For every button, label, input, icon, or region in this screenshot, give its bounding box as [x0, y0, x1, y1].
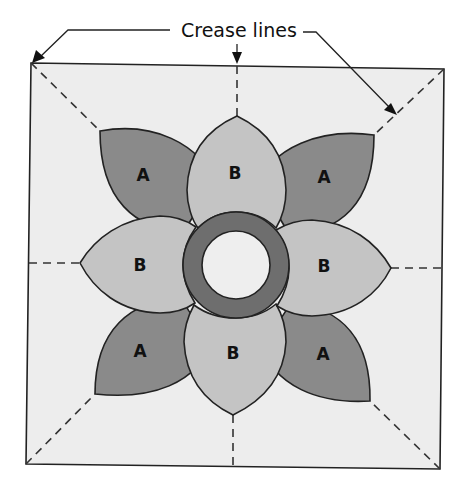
label-b-top: B — [229, 163, 242, 183]
leader-line-left — [40, 30, 170, 57]
label-b-bottom: B — [227, 343, 240, 363]
callout-label: Crease lines — [181, 19, 297, 41]
label-a-top-left: A — [136, 165, 150, 185]
label-b-right: B — [318, 256, 331, 276]
arrowhead-left-icon — [32, 50, 45, 63]
label-a-bottom-left: A — [133, 341, 147, 361]
label-a-bottom-right: A — [316, 344, 330, 364]
arrowhead-center-icon — [232, 52, 242, 64]
appliqué-flower-diagram: A B A B B A B A Crease lines — [0, 0, 465, 497]
center-hole — [202, 231, 270, 299]
label-b-left: B — [134, 255, 147, 275]
label-a-top-right: A — [317, 167, 331, 187]
